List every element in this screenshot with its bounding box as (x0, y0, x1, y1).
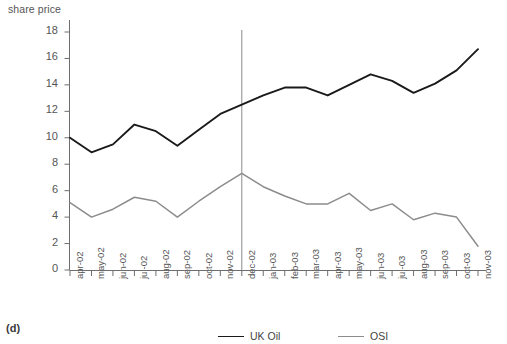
legend-swatch-uk-oil (218, 336, 244, 337)
legend-swatch-osi (338, 336, 364, 337)
chart-figure: share price 024681012141618 apr-02may-02… (0, 0, 507, 344)
panel-label: (d) (6, 322, 20, 334)
legend-label-uk-oil: UK Oil (250, 330, 280, 342)
series-line-uk-oil (70, 49, 478, 152)
series-line-osi (70, 173, 478, 246)
plot-area (0, 0, 507, 344)
legend-label-osi: OSI (370, 330, 388, 342)
